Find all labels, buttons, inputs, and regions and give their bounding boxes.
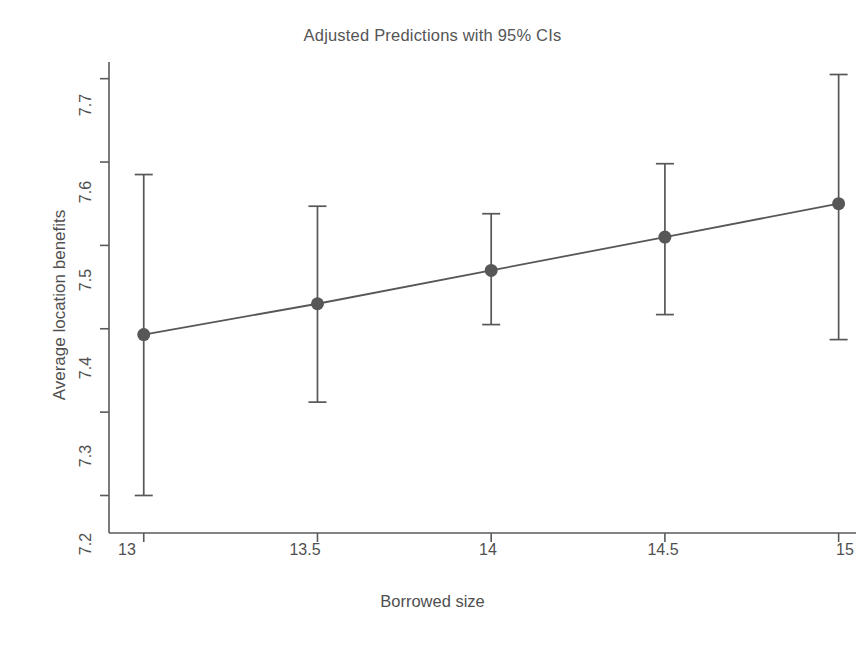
- data-point: [137, 328, 150, 341]
- data-point: [658, 231, 671, 244]
- error-bars: [135, 75, 848, 496]
- data-point: [485, 264, 498, 277]
- data-point: [832, 197, 845, 210]
- chart-container: Adjusted Predictions with 95% CIs Averag…: [0, 0, 865, 648]
- plot-area: [0, 0, 865, 648]
- x-axis-ticks: [144, 533, 839, 542]
- y-axis-ticks: [100, 79, 109, 496]
- data-point: [311, 297, 324, 310]
